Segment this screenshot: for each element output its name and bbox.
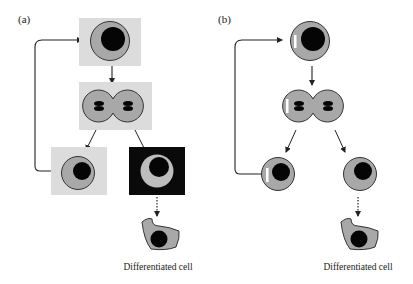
nucleus [272,163,290,181]
panel-a: (a) [18,13,193,272]
panel-a-label: (a) [18,13,31,26]
daughter-without-marker [344,158,377,191]
panel-b: (b) [218,13,393,272]
fate-determinant-marker [294,35,297,48]
chromosomes [94,101,104,106]
panel-b-label: (b) [218,13,231,26]
nucleus [101,27,125,51]
daughter-with-marker [262,158,295,191]
nucleus [301,27,325,51]
nucleus [151,231,168,248]
self-renewal-loop-arrow [235,40,282,174]
stem-cell-with-marker [291,22,330,61]
nucleus [73,162,91,180]
self-renewed-stem-cell [62,157,95,190]
caption-differentiated-cell-b: Differentiated cell [323,262,393,272]
differentiated-cell [341,218,378,249]
dividing-cell-with-marker [283,90,344,122]
stem-cell [91,22,130,61]
differentiated-cell [142,218,179,249]
line-to-right-daughter [135,130,144,148]
fate-determinant-marker [266,168,269,182]
arrow-to-right-daughter [335,130,345,152]
stem-cell-division-figure: (a) [0,0,413,284]
caption-differentiated-cell-a: Differentiated cell [123,262,193,272]
committed-daughter-cell [141,155,174,188]
arrow-to-left-daughter [286,130,296,152]
nucleus [351,231,368,248]
nucleus [354,162,372,180]
nucleus [149,157,169,177]
fate-determinant-marker [286,99,289,113]
